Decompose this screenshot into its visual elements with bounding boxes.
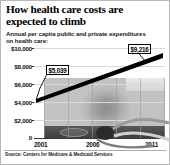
x-tick-label-2001: 2001 <box>34 141 47 148</box>
page-title: How health care costs are expected to cl… <box>6 4 152 27</box>
chart-subtitle: Annual per capita public and private exp… <box>6 30 146 44</box>
y-tick-label-8000: $8,000 <box>2 63 32 70</box>
callout-leader-lines <box>34 48 165 139</box>
callout-start-value: $5,039 <box>46 65 69 75</box>
y-tick-label-6000: $6,000 <box>2 81 32 88</box>
y-axis: $10,000 $8,000 $6,000 $4,000 $2,000 0 <box>1 48 32 139</box>
y-tick-label-4000: $4,000 <box>2 99 32 106</box>
y-tick-label-2000: $2,000 <box>2 117 32 124</box>
chart-card: How health care costs are expected to cl… <box>0 0 170 165</box>
y-tick-label-0: 0 <box>2 134 32 141</box>
callout-end-value: $9,216 <box>128 44 151 54</box>
y-tick-label-10000: $10,000 <box>2 45 32 52</box>
